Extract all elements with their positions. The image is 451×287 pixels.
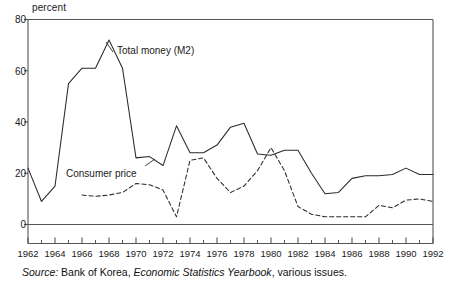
y-tick-label-0: 0 [6,220,26,230]
source-work-title: Economic Statistics Yearbook [133,266,271,278]
y-tick-label-40: 40 [6,118,26,128]
series-layer [28,40,433,217]
leader-lines [106,42,155,166]
source-suffix: , various issues. [272,266,347,278]
y-tick-label-20: 20 [6,169,26,179]
series-label-consumer-price: Consumer price [66,168,137,179]
source-note: Source: Bank of Korea, Economic Statisti… [22,266,347,279]
source-publisher: Bank of Korea, [58,266,133,278]
series-label-total-money: Total money (M2) [117,45,194,56]
chart-figure: percent 0 20 40 60 80 1962 1964 1966 196… [0,0,451,287]
axis-layer [24,20,433,244]
series-line-consumer-price [82,148,433,217]
leader-line-consumer-price [145,159,155,166]
source-prefix: Source: [22,266,58,278]
plot-canvas [0,0,451,287]
y-tick-label-80: 80 [6,15,26,25]
y-tick-label-60: 60 [6,67,26,77]
x-tick-label-1992: 1992 [416,249,450,259]
y-axis-unit-label: percent [32,2,66,14]
